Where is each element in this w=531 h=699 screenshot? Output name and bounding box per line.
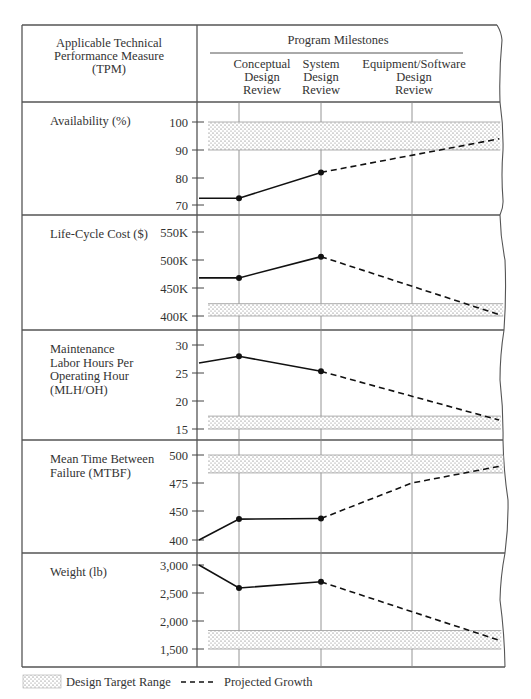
axis-tick-label: 550K — [160, 226, 188, 240]
axis-tick-label: 400 — [169, 534, 188, 548]
axis-tick-label: 15 — [176, 423, 189, 437]
milestone-data-point — [318, 579, 324, 585]
chart-header: Applicable TechnicalPerformance Measure(… — [22, 33, 500, 102]
design-target-band — [208, 304, 503, 316]
milestone-label: System — [303, 57, 340, 71]
axis-tick-label: 3,000 — [160, 559, 188, 573]
axis-tick-label: 100 — [169, 116, 188, 130]
milestone-label: Equipment/Software — [362, 57, 466, 71]
milestone-label: Review — [302, 83, 340, 97]
legend-swatch-target-range — [23, 675, 61, 688]
tpm-label: Mean Time Between — [50, 452, 155, 466]
tpm-header-label: Performance Measure — [54, 49, 164, 63]
actual-line — [199, 257, 321, 278]
axis-tick-label: 30 — [176, 339, 189, 353]
milestone-data-point — [236, 275, 242, 281]
legend-label-projected: Projected Growth — [224, 675, 313, 689]
milestone-data-point — [236, 353, 242, 359]
design-target-band — [208, 455, 503, 473]
tpm-label: Maintenance — [50, 342, 115, 356]
milestone-label: Design — [244, 70, 280, 84]
milestone-data-point — [236, 195, 242, 201]
milestones-header-label: Program Milestones — [287, 33, 388, 47]
milestone-data-point — [318, 368, 324, 374]
tpm-header-label: (TPM) — [92, 62, 126, 76]
design-target-band — [208, 122, 500, 150]
tpm-label: Weight (lb) — [50, 565, 107, 579]
axis-tick-label: 500K — [160, 254, 188, 268]
tpm-label: Availability (%) — [50, 114, 131, 128]
axis-tick-label: 475 — [169, 477, 188, 491]
tpm-chart: Applicable TechnicalPerformance Measure(… — [0, 0, 531, 699]
chart-panels: 100908070Availability (%)550K500K450K400… — [22, 102, 505, 667]
milestone-label: Review — [243, 83, 281, 97]
axis-tick-label: 450K — [160, 282, 188, 296]
tpm-panel: 3,0002,5002,0001,500Weight (lb) — [50, 553, 501, 667]
design-target-band — [208, 416, 501, 429]
actual-line — [199, 172, 321, 198]
axis-tick-label: 20 — [176, 395, 189, 409]
tpm-panel: 550K500K450K400KLife-Cycle Cost ($) — [22, 215, 504, 330]
tpm-panel: 500475450400Mean Time BetweenFailure (MT… — [22, 440, 505, 553]
milestone-data-point — [318, 516, 324, 522]
design-target-band — [208, 631, 501, 649]
actual-line — [199, 565, 321, 588]
milestone-data-point — [318, 169, 324, 175]
axis-tick-label: 450 — [169, 505, 188, 519]
tpm-label: Labor Hours Per — [50, 356, 134, 370]
milestone-label: Review — [395, 83, 433, 97]
axis-tick-label: 25 — [176, 367, 189, 381]
actual-line — [199, 356, 321, 371]
axis-tick-label: 2,000 — [160, 615, 188, 629]
axis-tick-label: 500 — [169, 449, 188, 463]
actual-line — [199, 519, 321, 540]
milestone-label: Design — [396, 70, 432, 84]
tpm-panel: 30252015MaintenanceLabor Hours PerOperat… — [22, 330, 503, 440]
milestone-label: Conceptual — [234, 57, 291, 71]
axis-tick-label: 400K — [160, 310, 188, 324]
milestone-data-point — [318, 254, 324, 260]
axis-tick-label: 2,500 — [160, 587, 188, 601]
tpm-label: (MLH/OH) — [50, 383, 108, 397]
axis-tick-label: 90 — [176, 144, 189, 158]
chart-legend: Design Target RangeProjected Growth — [23, 675, 313, 689]
axis-tick-label: 80 — [176, 172, 189, 186]
tpm-label: Operating Hour — [50, 369, 130, 383]
milestone-data-point — [236, 516, 242, 522]
torn-right-edge — [497, 25, 508, 667]
projected-line — [321, 466, 500, 518]
projected-line — [321, 371, 499, 420]
axis-tick-label: 1,500 — [160, 643, 188, 657]
axis-tick-label: 70 — [176, 199, 189, 213]
tpm-header-label: Applicable Technical — [56, 36, 163, 50]
legend-label-target-range: Design Target Range — [66, 675, 171, 689]
tpm-panel: 100908070Availability (%) — [22, 102, 500, 215]
tpm-label: Life-Cycle Cost ($) — [50, 227, 148, 241]
tpm-label: Failure (MTBF) — [50, 466, 131, 480]
milestone-data-point — [236, 585, 242, 591]
milestone-label: Design — [303, 70, 339, 84]
